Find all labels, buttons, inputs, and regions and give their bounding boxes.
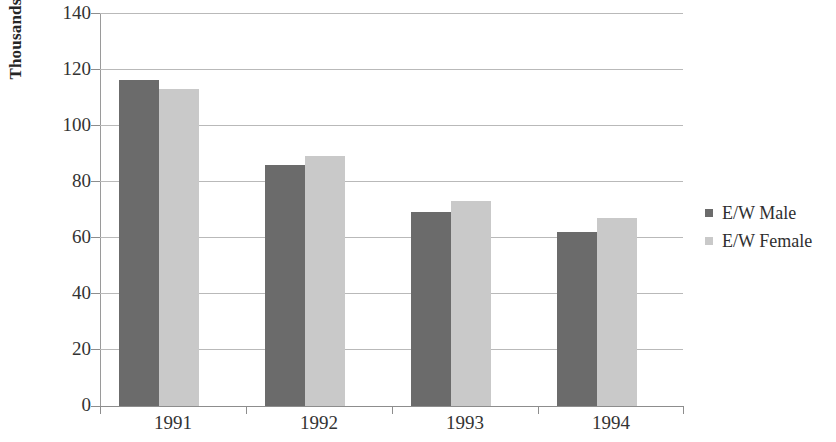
x-tick-label-1991: 1991 <box>100 412 246 434</box>
legend: E/W Male E/W Female <box>705 199 836 255</box>
bar-chart: Thousands 140 120 100 80 60 40 20 0 <box>0 0 836 442</box>
y-tick-mark-20 <box>91 349 100 350</box>
y-tick-label-20: 20 <box>31 339 91 358</box>
bar-1993-female <box>451 201 491 406</box>
y-tick-label-0: 0 <box>31 395 91 414</box>
y-tick-mark-100 <box>91 125 100 126</box>
y-tick-label-100: 100 <box>31 115 91 134</box>
legend-label-female: E/W Female <box>722 231 812 252</box>
y-tick-mark-0 <box>91 406 100 407</box>
y-tick-label-140: 140 <box>31 3 91 22</box>
y-axis-title: Thousands <box>6 0 28 89</box>
y-tick-label-40: 40 <box>31 283 91 302</box>
y-tick-mark-120 <box>91 69 100 70</box>
bar-1991-female <box>159 89 199 406</box>
y-tick-label-80: 80 <box>31 171 91 190</box>
bar-1993-male <box>411 212 451 406</box>
y-tick-mark-140 <box>91 13 100 14</box>
x-tick-label-1992: 1992 <box>246 412 392 434</box>
x-tick-label-1994: 1994 <box>538 412 684 434</box>
square-marker-icon <box>705 237 713 245</box>
bar-1994-female <box>597 218 637 406</box>
y-tick-label-60: 60 <box>31 227 91 246</box>
bar-1992-female <box>305 156 345 406</box>
legend-item-female: E/W Female <box>705 227 836 255</box>
square-marker-icon <box>705 209 713 217</box>
x-tick-label-1993: 1993 <box>392 412 538 434</box>
y-tick-mark-60 <box>91 237 100 238</box>
legend-item-male: E/W Male <box>705 199 836 227</box>
bar-1992-male <box>265 165 305 406</box>
y-tick-mark-80 <box>91 181 100 182</box>
bars-layer <box>100 13 683 406</box>
y-tick-label-120: 120 <box>31 59 91 78</box>
bar-1994-male <box>557 232 597 406</box>
legend-label-male: E/W Male <box>722 203 796 224</box>
bar-1991-male <box>119 80 159 406</box>
y-tick-mark-40 <box>91 293 100 294</box>
